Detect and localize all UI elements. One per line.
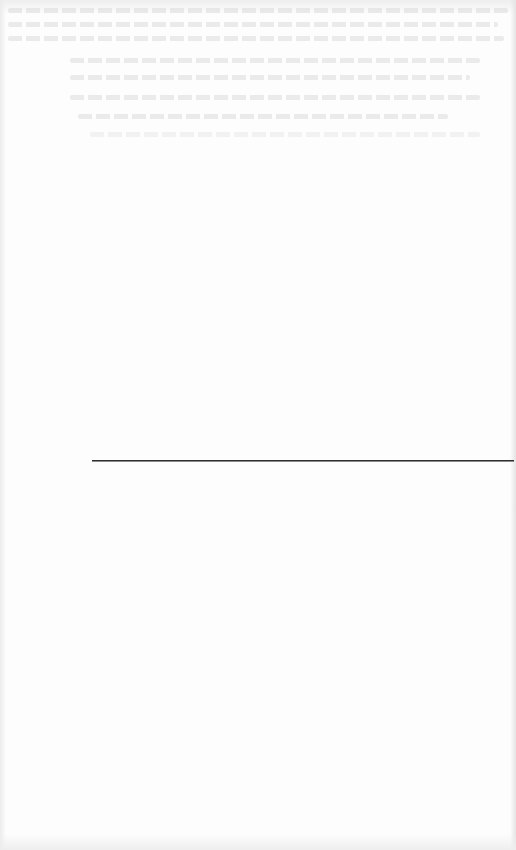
ghost-line: [70, 58, 480, 63]
ghost-line: [90, 132, 480, 137]
ghost-line: [78, 114, 448, 119]
ghost-line: [8, 36, 504, 41]
ghost-line: [70, 95, 480, 100]
ghost-line: [8, 22, 498, 27]
scan-edge-left: [0, 0, 6, 850]
scan-edge-right: [510, 0, 516, 850]
footnote-separator-rule: [92, 460, 514, 462]
document-page: [0, 0, 516, 850]
scan-edge-bottom: [0, 834, 516, 850]
ghost-line: [70, 75, 470, 80]
ghost-line: [8, 8, 508, 13]
